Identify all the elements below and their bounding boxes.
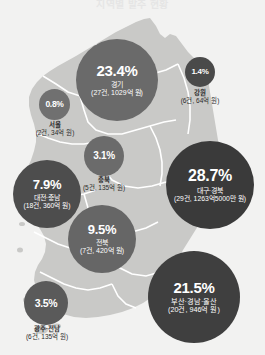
bubble-region-label: 경기 xyxy=(111,81,123,89)
bubble-seoul[interactable]: 0.8% xyxy=(39,89,70,120)
bubble-jeonbuk[interactable]: 9.5% 전북 (7건, 420억 원) xyxy=(68,205,136,273)
bubble-daejeon-chungnam[interactable]: 7.9% 대전·충남 (18건, 360억 원) xyxy=(13,160,81,228)
bubble-percent: 1.4% xyxy=(191,68,208,76)
bubble-map-figure: 지역별 발주 현황 xyxy=(0,0,265,355)
bubble-detail-label: (29건, 1263억5000만 원) xyxy=(174,195,246,203)
caption-seoul: 서울 (2건, 34억 원) xyxy=(22,121,88,137)
bubble-percent: 0.8% xyxy=(45,100,63,109)
caption-region-label: 충북 xyxy=(71,176,137,184)
bubble-percent: 23.4% xyxy=(96,63,137,78)
bubble-detail-label: (18건, 360억 원) xyxy=(23,202,70,210)
bubble-percent: 3.5% xyxy=(35,298,58,309)
caption-gangwon: 강원 (6건, 64억 원) xyxy=(170,89,230,105)
caption-region-label: 서울 xyxy=(22,121,88,129)
caption-region-label: 강원 xyxy=(170,89,230,97)
caption-detail-label: (6건, 135억 원) xyxy=(9,333,85,341)
bubble-percent: 21.5% xyxy=(173,280,214,295)
caption-chungbuk: 충북 (5건, 135억 원) xyxy=(71,176,137,192)
bubble-region-label: 전북 xyxy=(96,239,108,247)
bubble-gwangju-jeonnam[interactable]: 3.5% xyxy=(24,281,68,325)
bubble-region-label: 대구·경북 xyxy=(197,187,223,195)
bubble-detail-label: (27건, 1029억 원) xyxy=(91,89,143,97)
bubble-percent: 9.5% xyxy=(88,223,116,236)
bubble-percent: 3.1% xyxy=(93,151,115,161)
bubble-daegu-gyeongbuk[interactable]: 28.7% 대구·경북 (29건, 1263억5000만 원) xyxy=(166,141,254,229)
caption-detail-label: (6건, 64억 원) xyxy=(170,97,230,105)
caption-region-label: 광주·전남 xyxy=(9,325,85,333)
caption-detail-label: (2건, 34억 원) xyxy=(22,129,88,137)
bubble-region-label: 대전·충남 xyxy=(34,194,60,202)
bubble-gyeonggi[interactable]: 23.4% 경기 (27건, 1029억 원) xyxy=(76,39,158,121)
bubble-detail-label: (20건, 946억 원) xyxy=(168,306,220,314)
bubble-percent: 7.9% xyxy=(33,178,61,191)
bubble-percent: 28.7% xyxy=(188,168,232,184)
bubble-detail-label: (7건, 420억 원) xyxy=(80,247,124,255)
bubble-chungbuk[interactable]: 3.1% xyxy=(84,136,124,176)
caption-gwangju-jeonnam: 광주·전남 (6건, 135억 원) xyxy=(9,325,85,341)
bubble-gangwon[interactable]: 1.4% xyxy=(185,57,215,87)
bubble-busan-gyeongnam-ulsan[interactable]: 21.5% 부산·경남·울산 (20건, 946억 원) xyxy=(148,251,240,343)
